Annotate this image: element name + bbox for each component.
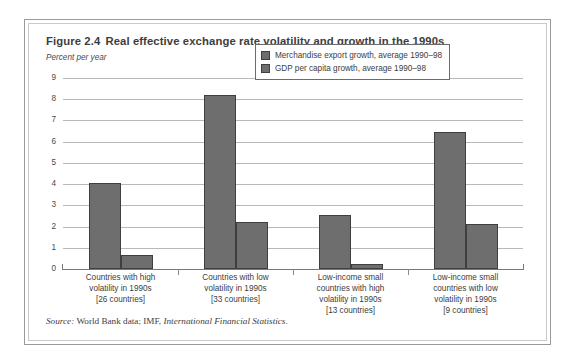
legend-swatch bbox=[261, 64, 270, 73]
figure-number: Figure 2.4 bbox=[46, 35, 100, 47]
category-label-line: volatility in 1990s bbox=[408, 294, 523, 305]
category-label-line: [9 countries] bbox=[408, 305, 523, 316]
category-label-line: volatility in 1990s bbox=[293, 294, 408, 305]
bar bbox=[89, 183, 121, 269]
x-axis-right-tick bbox=[523, 264, 524, 270]
category-label-line: countries with high bbox=[293, 283, 408, 294]
figure-subtitle: Percent per year bbox=[46, 53, 107, 62]
category-label-line: countries with low bbox=[408, 283, 523, 294]
y-axis-tick-label: 9 bbox=[51, 74, 56, 82]
y-axis-tick-label: 6 bbox=[51, 138, 56, 146]
y-axis-tick-label: 3 bbox=[51, 201, 56, 209]
gridline bbox=[63, 120, 523, 121]
category-label-line: volatility in 1990s bbox=[178, 283, 293, 294]
y-axis-tick-label: 0 bbox=[51, 265, 56, 273]
bar bbox=[319, 215, 351, 269]
category-label: Countries with lowvolatility in 1990s[33… bbox=[178, 272, 293, 320]
category-label: Countries with highvolatility in 1990s[2… bbox=[63, 272, 178, 320]
chart-legend: Merchandise export growth, average 1990–… bbox=[255, 44, 450, 80]
gridline bbox=[63, 99, 523, 100]
category-label-line: [13 countries] bbox=[293, 305, 408, 316]
y-axis-tick-label: 1 bbox=[51, 244, 56, 252]
category-axis-labels: Countries with highvolatility in 1990s[2… bbox=[63, 272, 523, 320]
legend-item: Merchandise export growth, average 1990–… bbox=[261, 49, 442, 62]
y-axis-tick-label: 7 bbox=[51, 116, 56, 124]
category-label-line: Countries with high bbox=[63, 272, 178, 283]
bar bbox=[351, 264, 383, 269]
category-label-line: [26 countries] bbox=[63, 294, 178, 305]
source-period: . bbox=[285, 316, 287, 326]
y-axis-tick-label: 5 bbox=[51, 159, 56, 167]
legend-item: GDP per capita growth, average 1990–98 bbox=[261, 62, 442, 75]
figure-panel: Figure 2.4Real effective exchange rate v… bbox=[24, 19, 551, 345]
category-label-line: Low-income small bbox=[408, 272, 523, 283]
category-label-line: volatility in 1990s bbox=[63, 283, 178, 294]
category-label-line: Low-income small bbox=[293, 272, 408, 283]
bar bbox=[204, 95, 236, 269]
y-axis-tick-label: 2 bbox=[51, 222, 56, 230]
bar bbox=[466, 224, 498, 269]
y-axis-tick-label: 8 bbox=[51, 95, 56, 103]
y-axis-tick-label: 4 bbox=[51, 180, 56, 188]
legend-label: Merchandise export growth, average 1990–… bbox=[275, 51, 442, 60]
x-axis-left-tick bbox=[62, 264, 63, 270]
category-label-line: [33 countries] bbox=[178, 294, 293, 305]
source-note: Source: World Bank data; IMF, Internatio… bbox=[46, 316, 288, 326]
legend-swatch bbox=[261, 51, 270, 60]
legend-label: GDP per capita growth, average 1990–98 bbox=[275, 64, 426, 73]
source-publication: International Financial Statistics bbox=[163, 316, 285, 326]
category-label: Low-income smallcountries with lowvolati… bbox=[408, 272, 523, 320]
plot-area: 0123456789 bbox=[63, 78, 523, 269]
source-text: World Bank data; IMF, bbox=[76, 316, 161, 326]
bar bbox=[236, 222, 268, 269]
category-label-line: Countries with low bbox=[178, 272, 293, 283]
category-label: Low-income smallcountries with highvolat… bbox=[293, 272, 408, 320]
bar bbox=[434, 132, 466, 269]
source-label: Source: bbox=[46, 316, 74, 326]
bar bbox=[121, 255, 153, 269]
